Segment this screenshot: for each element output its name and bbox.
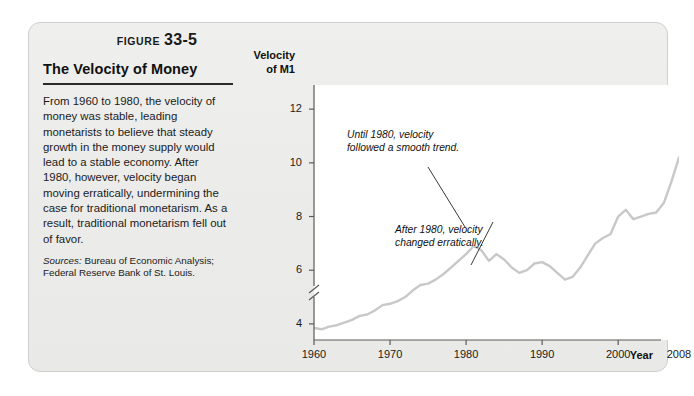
annotation-1-line2: followed a smooth trend. [347,142,459,155]
y-axis-title-line2: of M1 [229,63,295,77]
y-axis-title-line1: Velocity [229,49,295,63]
figure-number: 33-5 [164,31,197,48]
x-tick-label-1980: 1980 [444,348,488,360]
annotation-after-1980: After 1980, velocity changed erratically… [395,224,484,249]
chart-area: Velocity of M1 4681012 19601970198019902… [225,37,661,367]
figure-body-text: From 1960 to 1980, the velocity of money… [43,94,229,247]
annotation-2-line1: After 1980, velocity [395,224,484,237]
figure-panel: FIGURE33-5 The Velocity of Money From 19… [28,22,668,372]
annotation-1-line1: Until 1980, velocity [347,129,459,142]
y-axis-title: Velocity of M1 [229,49,295,76]
y-tick-label-6: 6 [276,263,302,275]
sources-label: Sources: [43,255,82,266]
plot-surface [314,85,679,340]
annotation-2-line2: changed erratically. [395,237,484,250]
y-tick-label-12: 12 [276,102,302,114]
figure-number-label: FIGURE33-5 [43,31,235,49]
x-tick-label-1970: 1970 [368,348,412,360]
y-tick-label-8: 8 [276,210,302,222]
figure-sources: Sources: Bureau of Economic Analysis; Fe… [43,255,231,280]
x-tick-label-1990: 1990 [520,348,564,360]
annotation-until-1980: Until 1980, velocity followed a smooth t… [347,129,459,154]
x-tick-label-2008: 2008 [657,348,694,360]
figure-word: FIGURE [117,35,160,47]
figure-text-column: FIGURE33-5 The Velocity of Money From 19… [43,31,235,280]
y-tick-label-4: 4 [276,317,302,329]
x-tick-marks [314,340,661,345]
velocity-line-chart [314,85,679,340]
series-line-velocity-of-m1 [314,157,679,329]
page-title: The Velocity of Money [43,61,235,77]
title-divider [43,83,233,85]
y-tick-label-10: 10 [276,156,302,168]
x-axis-title: Year [630,349,653,361]
x-tick-label-1960: 1960 [292,348,336,360]
